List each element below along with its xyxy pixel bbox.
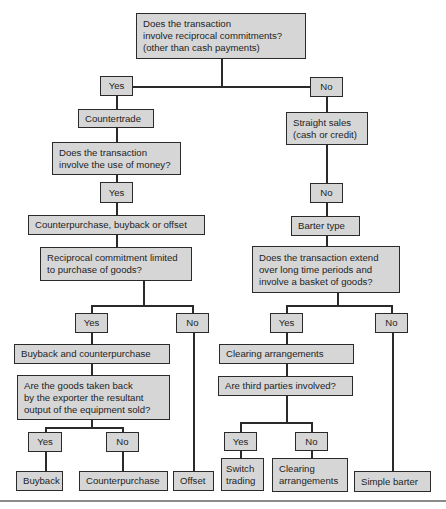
- connector: [286, 333, 288, 344]
- connector: [143, 281, 145, 306]
- connector: [116, 96, 118, 109]
- result-offset: Offset: [173, 471, 214, 491]
- answer-yes: Yes: [270, 313, 303, 333]
- bottom-rule: [0, 500, 446, 502]
- answer-yes: Yes: [100, 76, 133, 96]
- connector: [286, 364, 288, 376]
- clearing-arrangements-node: Clearing arrangements: [219, 344, 354, 364]
- money-question: Does the transaction involve the use of …: [52, 142, 181, 175]
- connector: [240, 422, 312, 424]
- connector: [193, 333, 195, 471]
- connector: [122, 452, 124, 471]
- connector: [91, 333, 93, 344]
- straight-sales-node: Straight sales (cash or credit): [286, 112, 368, 145]
- connector: [91, 305, 93, 313]
- connector: [311, 451, 313, 458]
- connector: [326, 236, 328, 246]
- answer-no: No: [106, 432, 139, 452]
- goods-taken-back-question: Are the goods taken back by the exporter…: [17, 375, 170, 420]
- connector: [240, 451, 242, 458]
- connector: [91, 305, 193, 307]
- answer-no: No: [310, 77, 343, 97]
- long-time-basket-question: Does the transaction extend over long ti…: [252, 246, 400, 293]
- connector: [391, 305, 393, 313]
- connector: [286, 396, 288, 423]
- countertrade-node: Countertrade: [78, 109, 154, 128]
- connector: [286, 305, 288, 313]
- connector: [240, 422, 242, 432]
- result-counterpurchase: Counterpurchase: [79, 471, 168, 491]
- connector: [311, 422, 313, 432]
- answer-yes: Yes: [100, 182, 133, 203]
- answer-yes: Yes: [28, 432, 62, 452]
- connector: [326, 203, 328, 216]
- buyback-counterpurchase-node: Buyback and counterpurchase: [14, 344, 170, 364]
- reciprocal-commitment-question: Reciprocal commitment limited to purchas…: [40, 247, 192, 281]
- barter-type-node: Barter type: [291, 216, 360, 236]
- connector: [286, 305, 392, 307]
- result-switch-trading: Switch trading: [221, 458, 264, 491]
- answer-no: No: [375, 313, 408, 333]
- connector: [91, 364, 93, 375]
- third-parties-question: Are third parties involved?: [218, 376, 353, 396]
- connector: [116, 235, 118, 247]
- result-clearing-arrangements: Clearing arrangements: [272, 458, 348, 492]
- result-simple-barter: Simple barter: [354, 471, 431, 492]
- answer-no: No: [176, 313, 209, 333]
- root-question: Does the transaction involve reciprocal …: [136, 13, 306, 59]
- answer-yes: Yes: [224, 432, 257, 451]
- connector: [116, 175, 118, 182]
- answer-no: No: [310, 183, 343, 203]
- connector: [116, 128, 118, 142]
- connector: [392, 333, 394, 471]
- connector: [116, 203, 118, 215]
- answer-yes: Yes: [75, 313, 108, 333]
- connector: [133, 86, 310, 88]
- connector: [45, 452, 47, 471]
- counterpurchase-buyback-offset-node: Counterpurchase, buyback or offset: [28, 215, 205, 235]
- connector: [45, 427, 123, 429]
- connector: [326, 97, 328, 112]
- answer-no: No: [295, 432, 328, 451]
- result-buyback: Buyback: [16, 471, 63, 491]
- connector: [192, 305, 194, 313]
- connector: [221, 59, 223, 87]
- connector: [326, 145, 328, 183]
